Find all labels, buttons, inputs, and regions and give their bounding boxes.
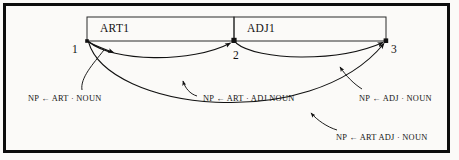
figure-canvas: ART1 ADJ1 1 2 3 NP ← ART · NOUN NP ← ART… — [0, 0, 459, 160]
node-label-2: 2 — [233, 49, 239, 61]
arc-label-adj-dot-noun: NP ← ADJ · NOUN — [359, 94, 432, 103]
arc-adj-dot-noun-curve — [236, 43, 383, 58]
node-label-3: 3 — [391, 43, 397, 55]
arc-art-dot-adj-noun-curve — [89, 42, 231, 58]
label-leader-lines — [82, 50, 362, 130]
leader-art-dot-adj-noun — [183, 81, 197, 96]
cell-label-adj1: ADJ1 — [247, 22, 275, 34]
leader-art-adj-dot-noun — [311, 113, 337, 130]
arc-label-art-dot-noun: NP ← ART · NOUN — [28, 94, 102, 103]
arc-label-art-dot-adj-noun: NP ← ART · ADJ NOUN — [203, 94, 295, 103]
chart-cell-rectangles — [87, 17, 386, 41]
node-dot-2 — [231, 38, 236, 43]
cell-label-art1: ART1 — [100, 22, 129, 34]
leader-adj-dot-noun — [340, 67, 362, 89]
chart-node-markers — [85, 38, 388, 43]
arc-label-art-adj-dot-noun: NP ← ART ADJ · NOUN — [336, 133, 428, 142]
leader-art-dot-noun — [82, 50, 104, 90]
node-label-1: 1 — [72, 43, 78, 55]
node-dot-3 — [384, 38, 389, 43]
